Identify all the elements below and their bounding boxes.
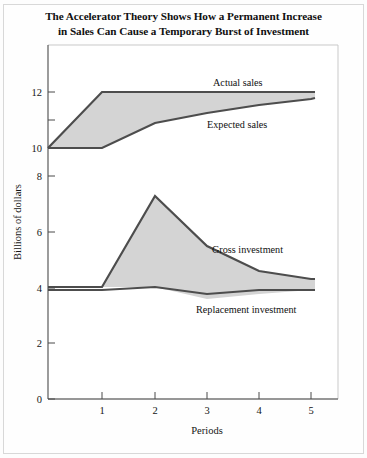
y-tick-label-0: 0 xyxy=(37,394,42,405)
y-tick-label-12: 12 xyxy=(32,87,43,98)
x-tick-label-2: 2 xyxy=(152,405,157,416)
y-tick-label-10: 10 xyxy=(32,143,43,154)
y-tick-label-2: 2 xyxy=(37,338,42,349)
y-tick-label-6: 6 xyxy=(37,227,42,238)
replacement-investment-label: Replacement investment xyxy=(196,304,297,315)
x-axis-title: Periods xyxy=(191,425,223,436)
actual-sales-label: Actual sales xyxy=(213,77,263,88)
y-axis-title: Billions of dollars xyxy=(12,184,23,260)
figure-container: The Accelerator Theory Shows How a Perma… xyxy=(0,0,367,458)
plot-area: 0 2 4 6 8 10 12 1 2 3 4 5 Periods Billio… xyxy=(0,0,367,458)
x-tick-label-5: 5 xyxy=(308,405,313,416)
x-tick-label-3: 3 xyxy=(204,405,209,416)
y-tick-label-8: 8 xyxy=(37,171,42,182)
expected-sales-label: Expected sales xyxy=(207,119,267,130)
chart-svg: 0 2 4 6 8 10 12 1 2 3 4 5 Periods Billio… xyxy=(0,0,367,458)
gross-investment-label: Gross investment xyxy=(212,244,283,255)
y-tick-label-4: 4 xyxy=(37,283,43,294)
x-tick-label-4: 4 xyxy=(256,405,262,416)
x-tick-label-1: 1 xyxy=(99,405,104,416)
